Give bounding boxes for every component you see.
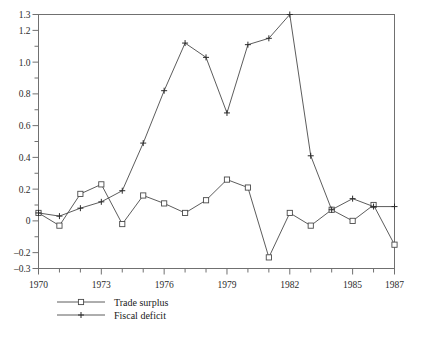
data-point-marker <box>182 210 187 215</box>
y-tick-label: 0.4 <box>19 153 31 163</box>
legend-marker-square <box>78 299 83 304</box>
x-tick-label: 1979 <box>217 280 236 290</box>
x-axis-ticks: 1970197319761979198219851987 <box>29 269 404 290</box>
series-2 <box>36 12 398 220</box>
x-tick-label: 1970 <box>29 280 48 290</box>
y-tick-label: 0.8 <box>19 89 31 99</box>
x-tick-label: 1973 <box>92 280 111 290</box>
data-point-marker <box>245 185 250 190</box>
x-tick-label: 1985 <box>343 280 362 290</box>
y-tick-label: 0.6 <box>19 121 31 131</box>
x-tick-label: 1987 <box>385 280 404 290</box>
data-point-marker <box>120 221 125 226</box>
data-point-marker <box>224 177 229 182</box>
y-tick-label: 1.0 <box>19 58 31 68</box>
data-point-marker <box>162 201 167 206</box>
y-tick-label: 0 <box>26 216 31 226</box>
data-point-marker <box>392 242 397 247</box>
series-line <box>39 15 395 217</box>
data-point-marker <box>57 223 62 228</box>
y-axis-ticks: –0.3–0.200.20.40.60.81.01.21.3 <box>13 10 39 274</box>
chart-legend: Trade surplusFiscal deficit <box>57 297 168 321</box>
legend-item-1[interactable]: Trade surplus <box>57 297 168 308</box>
y-tick-label: –0.3 <box>13 264 31 274</box>
data-point-marker <box>266 255 271 260</box>
plot-frame <box>39 15 395 269</box>
y-tick-label: –0.2 <box>13 248 31 258</box>
x-tick-label: 1982 <box>280 280 299 290</box>
series-1 <box>36 177 397 260</box>
data-point-marker <box>141 193 146 198</box>
data-point-marker <box>203 198 208 203</box>
data-point-marker <box>78 191 83 196</box>
y-tick-label: 1.3 <box>19 10 31 20</box>
data-point-marker <box>99 182 104 187</box>
line-chart: –0.3–0.200.20.40.60.81.01.21.3 197019731… <box>0 0 423 337</box>
data-point-marker <box>350 218 355 223</box>
legend-label: Trade surplus <box>114 297 168 308</box>
x-tick-label: 1976 <box>155 280 174 290</box>
data-point-marker <box>287 210 292 215</box>
y-tick-label: 0.2 <box>19 185 31 195</box>
series-container <box>36 12 398 260</box>
legend-label: Fiscal deficit <box>114 310 166 321</box>
y-tick-label: 1.2 <box>19 26 31 36</box>
chart-figure: –0.3–0.200.20.40.60.81.01.21.3 197019731… <box>0 0 423 337</box>
legend-item-2[interactable]: Fiscal deficit <box>57 310 166 321</box>
series-line <box>39 180 395 258</box>
data-point-marker <box>308 223 313 228</box>
